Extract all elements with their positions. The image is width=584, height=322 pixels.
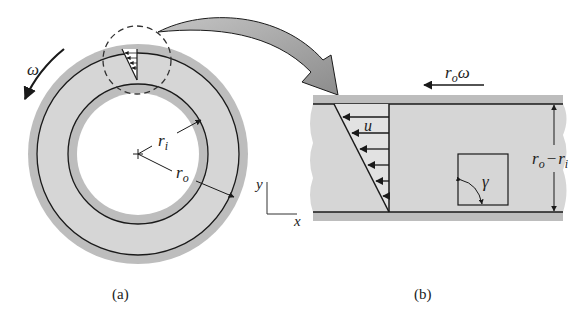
omega-label: ω [27, 60, 39, 79]
caption-b: (b) [414, 286, 432, 303]
panel-b: u roω γ ro−ri (b) [310, 63, 568, 303]
axis-x-label: x [293, 213, 301, 229]
caption-a: (a) [112, 286, 129, 303]
couette-flow-diagram: ri ro ω y x (a) [0, 0, 584, 322]
bottom-wall [313, 212, 563, 221]
top-wall [313, 95, 563, 104]
wall-velocity-label: roω [445, 63, 470, 85]
xy-axes: y x [254, 176, 301, 229]
axis-y-label: y [254, 176, 263, 192]
gap-label: ro−ri [532, 149, 568, 171]
panel-a: ri ro ω y x (a) [25, 26, 301, 303]
u-label: u [364, 117, 372, 134]
